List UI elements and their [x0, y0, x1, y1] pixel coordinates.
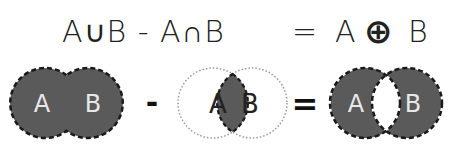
- symmetric-difference-venn: A B: [330, 68, 442, 138]
- xor-symbol-icon: ⊕: [364, 11, 394, 51]
- intersection-venn: A B: [178, 68, 287, 138]
- union-venn: A B: [10, 68, 123, 138]
- formula-equals: =: [292, 14, 318, 49]
- intersection-label-b: B: [241, 89, 259, 119]
- union-label-b: B: [85, 90, 101, 118]
- union-label-a: A: [34, 90, 51, 118]
- formula-rhs-b: B: [408, 14, 429, 49]
- formula-lhs: A∪B - A∩B: [62, 14, 225, 49]
- minus-sign: -: [146, 85, 158, 120]
- venn-diagram: A B - A B = A B: [0, 60, 455, 145]
- intersection-label-a: A: [209, 89, 227, 119]
- symdiff-label-b: B: [405, 90, 421, 118]
- formula-rhs-a: A: [335, 14, 357, 49]
- equals-sign: =: [292, 85, 319, 123]
- formula: A∪B - A∩B = A ⊕ B: [0, 14, 455, 54]
- symdiff-label-a: A: [348, 90, 365, 118]
